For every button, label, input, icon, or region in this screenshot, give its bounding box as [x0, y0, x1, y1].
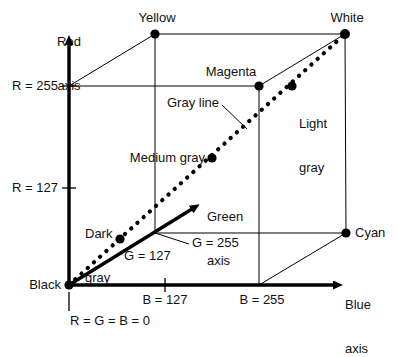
- vertex-label-magenta: Magenta: [206, 65, 257, 79]
- red-axis-label-line2: axis: [57, 79, 81, 94]
- point-yellow: [150, 29, 159, 38]
- point-label-light-gray-line1: Light: [299, 117, 327, 132]
- point-label-light-gray: Light gray: [299, 88, 327, 204]
- edge-magenta-white-diag: [259, 34, 345, 86]
- edge-white-cyan-vertical: [345, 34, 346, 233]
- point-cyan: [341, 228, 350, 237]
- blue-axis-label-line1: Blue: [345, 298, 371, 313]
- vertex-label-black: Black: [29, 278, 61, 292]
- tick-label-b255: B = 255: [239, 293, 284, 307]
- blue-axis-label: Blue axis: [345, 269, 371, 357]
- leader-g255: [155, 233, 189, 244]
- tick-label-b127: B = 127: [142, 293, 187, 307]
- tick-label-g255: G = 255: [192, 236, 239, 250]
- point-white: [340, 29, 350, 39]
- vertex-label-white: White: [330, 11, 363, 25]
- tick-label-g127: G = 127: [124, 249, 171, 263]
- leader-gray-line: [222, 105, 247, 129]
- point-label-dark-gray: Dark gray: [85, 198, 112, 314]
- origin-value-label: R = G = B = 0: [70, 314, 150, 328]
- point-label-medium-gray: Medium gray: [130, 151, 205, 165]
- green-axis-label-line2: axis: [207, 254, 243, 269]
- tick-label-r127: R = 127: [12, 181, 58, 195]
- vertex-label-cyan: Cyan: [355, 226, 385, 240]
- green-axis-label-line1: Green: [207, 210, 243, 225]
- gray-line-label: Gray line: [167, 96, 219, 110]
- edge-cyan-b255-diag: [259, 233, 346, 285]
- red-axis-label-line1: Red: [57, 35, 81, 50]
- tick-label-r255: R = 255: [12, 79, 58, 93]
- red-axis-label: Red axis: [57, 6, 81, 122]
- blue-axis-label-line2: axis: [345, 342, 371, 357]
- point-medium-gray: [207, 153, 216, 162]
- point-magenta: [254, 81, 263, 90]
- point-light-gray: [287, 81, 296, 90]
- point-label-dark-gray-line1: Dark: [85, 227, 112, 242]
- edge-origin-yellow-diag: [69, 34, 155, 86]
- point-dark-gray: [115, 234, 124, 243]
- vertex-label-yellow: Yellow: [138, 11, 175, 25]
- point-black: [64, 280, 73, 289]
- point-label-light-gray-line2: gray: [299, 161, 327, 176]
- point-label-dark-gray-line2: gray: [85, 271, 112, 286]
